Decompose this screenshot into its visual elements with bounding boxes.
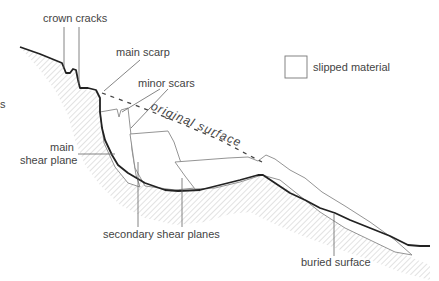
legend-label-slipped-material: slipped material (313, 61, 390, 73)
legend: slipped material (285, 56, 390, 78)
crown-cracks-label: crown cracks (43, 12, 108, 24)
main-scarp-label: main scarp (116, 46, 170, 58)
main-shear-plane-label-line2: shear plane (20, 154, 78, 166)
edge-text-fragment: s (0, 98, 6, 110)
secondary-shear-planes-label: secondary shear planes (103, 228, 220, 240)
landslide-diagram: original surface crown cracks main scarp… (0, 0, 439, 281)
buried-surface-label: buried surface (301, 256, 371, 268)
minor-scars-label: minor scars (138, 77, 195, 89)
legend-swatch-slipped-material (285, 56, 307, 78)
main-shear-plane-label-line1: main (50, 141, 74, 153)
